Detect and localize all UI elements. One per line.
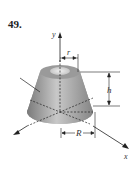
- x-axis: x: [93, 126, 129, 161]
- height-label: h: [107, 85, 112, 95]
- top-radius-label: r: [67, 48, 71, 57]
- frustum-body: [27, 65, 93, 124]
- y-axis-label: y: [51, 30, 56, 39]
- frustum-diagram: y x r h R: [0, 0, 139, 172]
- bottom-radius-label: R: [75, 128, 82, 138]
- y-axis: y: [51, 30, 62, 62]
- x-axis-label: x: [123, 152, 128, 161]
